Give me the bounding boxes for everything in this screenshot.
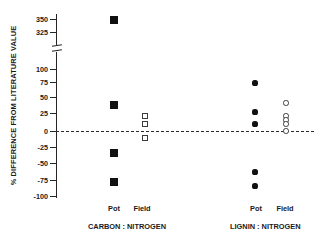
y-tick-label: 0 [18,127,48,136]
y-tick-mark [50,147,56,148]
y-tick-label: 25 [18,109,48,118]
y-tick-label: -75 [18,176,48,185]
y-tick-mark [50,113,56,114]
data-point-filled-square [110,16,117,23]
y-tick-mark [50,32,56,33]
y-tick-label-wrap: -25 [16,143,48,152]
data-point-filled-circle [252,169,257,174]
y-tick-label-wrap: 350 [16,15,48,24]
y-tick-label-wrap: 325 [16,28,48,37]
y-tick-label-wrap: -100 [16,192,48,201]
x-group-label: CARBON : NITROGEN [88,222,166,231]
y-tick-label: 50 [18,93,48,102]
y-tick-label-wrap: 50 [16,93,48,102]
y-tick-label-wrap: -75 [16,176,48,185]
y-tick-label-wrap: -50 [16,159,48,168]
y-axis-title: % DIFFERENCE FROM LITERATURE VALUE [9,13,20,199]
y-tick-label-wrap: 25 [16,109,48,118]
data-point-open-square [142,121,147,126]
x-category-label: Field [122,204,162,213]
data-point-open-circle [283,100,288,105]
data-point-open-square [142,113,147,118]
y-tick-mark [50,163,56,164]
y-tick-mark [50,97,56,98]
y-tick-label-wrap: 100 [16,65,48,74]
y-tick-label: 325 [18,28,48,37]
scatter-chart-figure: % DIFFERENCE FROM LITERATURE VALUE 35032… [0,0,317,241]
data-point-filled-circle [252,183,257,188]
data-point-filled-circle [252,80,257,85]
y-tick-label: -100 [18,192,48,201]
data-point-filled-circle [252,121,257,126]
y-tick-label: -50 [18,159,48,168]
y-axis-spine [56,14,57,198]
data-point-open-circle [283,121,288,126]
y-tick-mark [50,69,56,70]
data-point-filled-square [110,149,117,156]
data-point-filled-square [110,178,117,185]
x-category-label: Field [265,204,305,213]
y-tick-label: -25 [18,143,48,152]
y-tick-label: 350 [18,15,48,24]
data-point-open-circle [283,128,288,133]
data-point-filled-square [110,101,117,108]
data-point-open-square [142,135,147,140]
zero-reference-line [56,131,314,132]
data-point-filled-circle [252,109,257,114]
y-tick-mark [50,19,56,20]
y-tick-mark [50,82,56,83]
top-caption-fragment [118,0,308,7]
y-tick-mark [50,180,56,181]
y-tick-label: 100 [18,65,48,74]
y-tick-label-wrap: 0 [16,127,48,136]
x-group-label: LIGNIN : NITROGEN [230,222,301,231]
y-tick-label: 75 [18,78,48,87]
y-tick-label-wrap: 75 [16,78,48,87]
y-tick-mark [50,196,56,197]
